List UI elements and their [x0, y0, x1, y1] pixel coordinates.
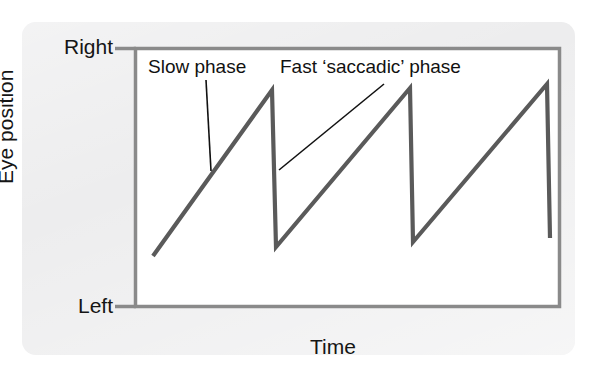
annotation-fast-saccadic-phase: Fast ‘saccadic’ phase: [280, 57, 461, 76]
y-axis-tick-label-right: Right: [64, 36, 113, 57]
figure-canvas: Right Left Eye position Time Slow phase …: [0, 0, 592, 375]
x-axis-title: Time: [310, 336, 356, 357]
plot-area-background: [136, 49, 560, 307]
y-axis-tick-label-left: Left: [78, 295, 113, 316]
annotation-slow-phase: Slow phase: [148, 57, 246, 76]
y-axis-title: Eye position: [0, 70, 16, 184]
